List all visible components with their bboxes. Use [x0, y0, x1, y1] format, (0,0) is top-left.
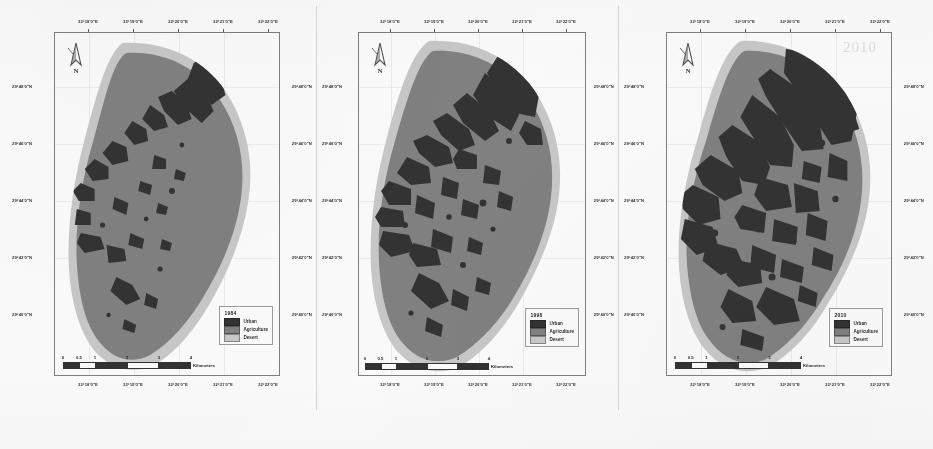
lon-tick-label-bottom: 32°22'0"E: [870, 382, 890, 387]
lon-tick-label: 32°22'0"E: [258, 19, 278, 24]
scale-seg: [96, 363, 127, 368]
legend-2010: 2010 Urban Agriculture Desert: [829, 308, 883, 348]
north-arrow-icon: N: [65, 41, 87, 79]
lat-tickmark: [585, 87, 586, 88]
lat-tick-label-right: 29°44'0"N: [292, 198, 312, 203]
lat-tickmark: [585, 258, 586, 259]
map-panel-2010: 32°18'0"E 32°19'0"E 32°20'0"E 32°21'0"E …: [620, 6, 926, 410]
lat-tick-label: 29°46'0"N: [624, 141, 644, 146]
lon-tick-label: 32°21'0"E: [213, 19, 233, 24]
north-arrow-label: N: [369, 67, 391, 75]
legend-label-agriculture: Agriculture: [549, 329, 574, 334]
scale-seg: [128, 363, 159, 368]
lat-tickmark: [585, 315, 586, 316]
map-neatline: N 1998 Urban Agriculture Desert: [358, 32, 586, 376]
lat-tick-label: 29°44'0"N: [322, 198, 342, 203]
north-arrow-icon: N: [677, 41, 699, 79]
scale-seg: [397, 364, 427, 369]
legend-swatch-urban: [224, 318, 240, 326]
scale-tick-label: 0: [62, 355, 64, 360]
lat-tick-label: 29°48'0"N: [624, 84, 644, 89]
scale-seg: [366, 364, 382, 369]
lon-tick-label-bottom: 32°19'0"E: [424, 382, 444, 387]
lat-tick-label-right: 29°44'0"N: [904, 198, 924, 203]
lon-tick-label: 32°21'0"E: [825, 19, 845, 24]
scale-bar-2010: 0 0.5 1 2 3 4 Kilometers: [675, 355, 801, 369]
lat-tick-label-right: 29°42'0"N: [292, 255, 312, 260]
lat-tick-label-right: 29°48'0"N: [904, 84, 924, 89]
north-arrow-label: N: [677, 67, 699, 75]
legend-label-agriculture: Agriculture: [853, 329, 878, 334]
legend-swatch-desert: [834, 336, 850, 344]
legend-swatch-agriculture: [834, 328, 850, 336]
legend-item-desert: Desert: [834, 336, 878, 343]
lat-tick-label: 29°46'0"N: [12, 141, 32, 146]
legend-item-desert: Desert: [530, 336, 574, 343]
legend-swatch-agriculture: [530, 328, 546, 336]
scale-tick-label: 3: [768, 355, 770, 360]
scale-tick-label: 4: [190, 355, 192, 360]
legend-item-agriculture: Agriculture: [530, 328, 574, 335]
scale-tick-label: 3: [457, 356, 459, 361]
panel-divider-2: [618, 6, 619, 410]
legend-1984: 1984 Urban Agriculture Desert: [219, 306, 273, 346]
lon-tick-label-bottom: 32°20'0"E: [168, 382, 188, 387]
lat-tickmark: [891, 144, 892, 145]
lon-tick-label-bottom: 32°22'0"E: [258, 382, 278, 387]
scale-seg: [708, 363, 739, 368]
lat-tick-label-right: 29°40'0"N: [292, 312, 312, 317]
lat-tick-label: 29°40'0"N: [624, 312, 644, 317]
scale-seg: [382, 364, 398, 369]
legend-year-label: 2010: [834, 312, 878, 318]
legend-label-desert: Desert: [243, 335, 257, 340]
scale-seg: [739, 363, 770, 368]
lat-tick-label-right: 29°46'0"N: [292, 141, 312, 146]
lat-tick-label-right: 29°42'0"N: [594, 255, 614, 260]
lon-tick-label: 32°18'0"E: [78, 19, 98, 24]
scale-tick-label: 0: [364, 356, 366, 361]
legend-label-agriculture: Agriculture: [243, 327, 268, 332]
legend-label-urban: Urban: [549, 321, 562, 326]
lon-tick-label: 32°21'0"E: [512, 19, 532, 24]
scale-tick-label: 0.5: [688, 355, 694, 360]
lat-tick-label: 29°40'0"N: [322, 312, 342, 317]
scale-tick-label: 1: [94, 355, 96, 360]
figure-root: 32°18'0"E 32°19'0"E 32°20'0"E 32°21'0"E …: [0, 0, 933, 449]
lon-tick-label: 32°19'0"E: [735, 19, 755, 24]
lat-tickmark: [891, 258, 892, 259]
lat-tick-label: 29°44'0"N: [12, 198, 32, 203]
scale-tick-label: 0: [674, 355, 676, 360]
lat-tickmark: [279, 87, 280, 88]
scale-seg: [769, 363, 800, 368]
lon-tick-label: 32°20'0"E: [780, 19, 800, 24]
lat-tick-label-right: 29°40'0"N: [904, 312, 924, 317]
legend-swatch-desert: [224, 334, 240, 342]
lat-tick-label-right: 29°44'0"N: [594, 198, 614, 203]
scale-tick-label: 2: [426, 356, 428, 361]
scale-tick-label: 2: [126, 355, 128, 360]
lat-tick-label-right: 29°46'0"N: [904, 141, 924, 146]
north-arrow-label: N: [65, 67, 87, 75]
scale-seg: [159, 363, 190, 368]
scale-tick-label: 1: [705, 355, 707, 360]
lat-tick-label: 29°46'0"N: [322, 141, 342, 146]
scale-tick-label: 4: [488, 356, 490, 361]
lat-tick-label-right: 29°46'0"N: [594, 141, 614, 146]
lat-tick-label-right: 29°48'0"N: [292, 84, 312, 89]
lat-tick-label: 29°48'0"N: [322, 84, 342, 89]
lat-tick-label: 29°42'0"N: [624, 255, 644, 260]
lat-tickmark: [891, 315, 892, 316]
lon-tick-label-bottom: 32°21'0"E: [213, 382, 233, 387]
lat-tick-label-right: 29°48'0"N: [594, 84, 614, 89]
lon-tick-label-bottom: 32°22'0"E: [556, 382, 576, 387]
legend-label-urban: Urban: [853, 321, 866, 326]
lon-tick-label-bottom: 32°18'0"E: [78, 382, 98, 387]
lat-tickmark: [891, 201, 892, 202]
map-panel-1998: 32°18'0"E 32°19'0"E 32°20'0"E 32°21'0"E …: [318, 6, 616, 410]
lon-tick-label-bottom: 32°20'0"E: [780, 382, 800, 387]
legend-1998: 1998 Urban Agriculture Desert: [525, 308, 579, 348]
legend-label-urban: Urban: [243, 319, 256, 324]
scale-tick-label: 2: [737, 355, 739, 360]
lon-tick-label-bottom: 32°21'0"E: [512, 382, 532, 387]
map-panel-1984: 32°18'0"E 32°19'0"E 32°20'0"E 32°21'0"E …: [8, 6, 314, 410]
